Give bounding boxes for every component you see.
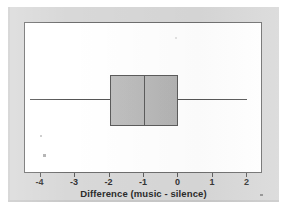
x-axis-tick-label: 1	[209, 176, 214, 188]
x-axis-tick-label: 2	[244, 176, 249, 188]
x-axis-tick-label: -1	[139, 176, 147, 188]
plot-frame	[24, 22, 262, 173]
panel-left-shade	[8, 7, 10, 202]
x-axis-tick-label: -4	[36, 176, 44, 188]
screenshot-root: -4-3-2-1012 Difference (music - silence)	[0, 0, 287, 208]
figure-panel: -4-3-2-1012 Difference (music - silence)	[8, 7, 279, 202]
scan-artifact-speck	[175, 37, 177, 39]
scan-artifact-speck	[260, 194, 263, 196]
x-axis-tick-label: 0	[175, 176, 180, 188]
whisker-right	[178, 99, 247, 100]
x-axis-tick-label: -2	[104, 176, 112, 188]
box-plot-median-line	[144, 75, 145, 126]
whisker-left	[30, 99, 109, 100]
scan-artifact-speck	[40, 135, 42, 137]
panel-bottom-shade	[8, 200, 279, 202]
plot-canvas	[25, 23, 261, 172]
x-axis-title: Difference (music - silence)	[8, 188, 279, 199]
x-axis-tick-label: -3	[70, 176, 78, 188]
scan-artifact-speck	[43, 154, 46, 157]
